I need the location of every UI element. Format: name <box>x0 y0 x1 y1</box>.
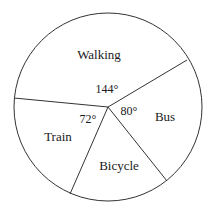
label-walking: Walking <box>77 47 121 62</box>
label-bicycle: Bicycle <box>99 158 139 173</box>
angle-bus: 80° <box>121 104 138 118</box>
label-train: Train <box>44 129 72 144</box>
label-bus: Bus <box>155 109 175 124</box>
pie-chart: Walking 144° 80° Bus 72° Train Bicycle <box>0 0 212 213</box>
pie-chart-svg: Walking 144° 80° Bus 72° Train Bicycle <box>0 0 212 213</box>
angle-walking: 144° <box>96 82 119 96</box>
angle-train: 72° <box>80 112 97 126</box>
